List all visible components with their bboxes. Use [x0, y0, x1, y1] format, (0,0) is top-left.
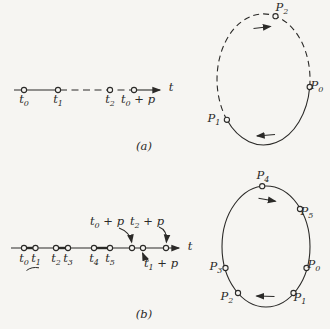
point-b-P2 [235, 290, 240, 295]
caption-a: (a) [136, 141, 152, 153]
orbit-label-b-P1: P1 [294, 292, 307, 304]
callout-label-t1p: t1 + p [144, 258, 178, 270]
orbit-b-direction-arrow-top [259, 198, 276, 201]
orbit-a-solid-arc [227, 87, 310, 145]
point-b-t4 [91, 245, 96, 250]
point-b-t0 [21, 245, 26, 250]
caption-b: (b) [136, 309, 152, 321]
tick-label-a-t2: t2 [105, 94, 115, 106]
tick-label-b-t2: t2 [51, 253, 61, 265]
orbit-label-a-P1: P1 [208, 113, 221, 125]
tick-label-b-t1: t1 [31, 253, 41, 265]
point-b-t2p [163, 245, 168, 250]
orbit-label-b-P0: P0 [308, 259, 321, 271]
tick-label-b-t4: t4 [89, 253, 99, 265]
diagram-canvas [0, 0, 330, 329]
tick-label-a-t1: t1 [53, 94, 63, 106]
point-b-t5 [107, 245, 112, 250]
axis-label-b-t: t [188, 241, 193, 253]
axis-label-a-t: t [169, 82, 174, 94]
callout-arrow-t2p [159, 227, 167, 242]
tick-label-b-t0: t0 [19, 253, 29, 265]
orbit-label-b-P3: P3 [210, 261, 223, 273]
point-b-t3 [65, 245, 70, 250]
callout-arrow-t0p [119, 228, 132, 242]
orbit-b-ellipse [222, 186, 310, 307]
orbit-label-a-P0: P0 [311, 80, 324, 92]
point-b-P4 [260, 184, 265, 189]
point-b-t1p [140, 245, 145, 250]
tick-label-b-t5: t5 [105, 253, 115, 265]
orbit-label-b-P5: P5 [301, 206, 314, 218]
stray-mark [27, 267, 40, 270]
point-b-t0p [129, 245, 134, 250]
point-a-P2 [273, 14, 278, 19]
tick-label-b-t3: t3 [63, 253, 73, 265]
tick-label-a-t0: t0 [19, 94, 29, 106]
orbit-b-direction-arrow-bottom [257, 296, 275, 297]
callout-label-t2p: t2 + p [130, 216, 164, 228]
point-b-t1 [33, 245, 38, 250]
tick-label-a-t0p: t0 + p [121, 94, 155, 106]
figure-periodic-orbit: t0 t1 t2 t0 + p t P2 P0 P1 (a) t0 t1 t2 … [0, 0, 330, 329]
orbit-label-a-P2: P2 [276, 2, 289, 14]
point-b-t2 [53, 245, 58, 250]
orbit-label-b-P4: P4 [257, 170, 270, 182]
orbit-a-direction-arrow-top [254, 27, 271, 29]
point-b-P3 [223, 265, 228, 270]
orbit-a-direction-arrow-bottom [257, 135, 275, 137]
orbit-a-dashed-arc [217, 14, 310, 120]
point-a-P1 [224, 117, 229, 122]
callout-label-t0p: t0 + p [90, 216, 124, 228]
orbit-label-b-P2: P2 [221, 291, 234, 303]
